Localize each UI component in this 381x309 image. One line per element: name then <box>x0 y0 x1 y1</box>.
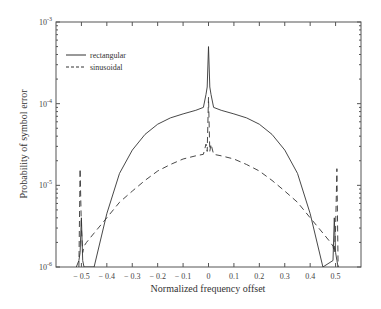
series-rectangular <box>76 47 338 267</box>
x-tick-label: 0.5 <box>331 272 341 281</box>
chart-canvas: 10-610-510-410-3 − 0.5− 0.4− 0.3− 0.2− 0… <box>0 0 381 309</box>
legend: rectangular sinusoidal <box>66 51 126 72</box>
series-sinusoidal <box>79 97 338 267</box>
x-tick-label: − 0.3 <box>124 272 141 281</box>
x-tick-label: 0 <box>207 272 211 281</box>
legend-label-rectangular: rectangular <box>90 51 126 60</box>
series-layer <box>76 47 338 267</box>
x-tick-label: − 0.1 <box>175 272 192 281</box>
y-tick-label: 10-4 <box>39 98 52 109</box>
y-tick-label: 10-6 <box>39 261 52 272</box>
x-tick-label: 0.2 <box>254 272 264 281</box>
x-axis-ticks: − 0.5− 0.4− 0.3− 0.2− 0.100.10.20.30.40.… <box>73 22 340 281</box>
x-tick-label: 0.3 <box>280 272 290 281</box>
x-tick-label: − 0.5 <box>73 272 90 281</box>
y-tick-label: 10-5 <box>39 179 52 190</box>
y-axis-label: Probability of symbol error <box>18 89 29 199</box>
y-tick-label: 10-3 <box>39 16 52 27</box>
x-tick-label: 0.1 <box>229 272 239 281</box>
x-tick-label: − 0.2 <box>149 272 166 281</box>
x-axis-label: Normalized frequency offset <box>151 283 266 294</box>
x-tick-label: − 0.4 <box>99 272 116 281</box>
y-axis-ticks: 10-610-510-410-3 <box>39 16 361 272</box>
x-tick-label: 0.4 <box>305 272 315 281</box>
legend-label-sinusoidal: sinusoidal <box>90 63 123 72</box>
